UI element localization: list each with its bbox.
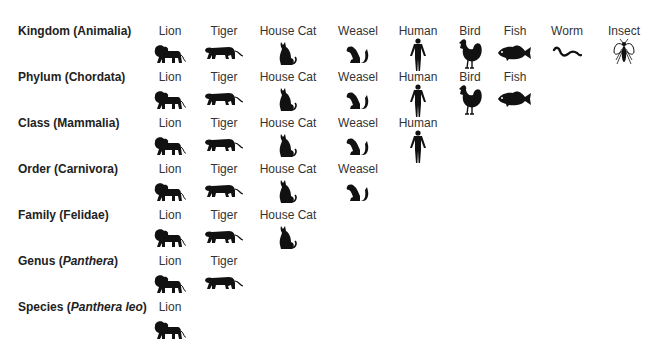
rank-label-class: Class (Mammalia)	[18, 116, 119, 130]
bird-icon	[457, 84, 483, 116]
rank-label-phylum: Phylum (Chordata)	[18, 70, 125, 84]
fish-icon	[497, 44, 533, 62]
human-icon	[409, 130, 427, 164]
worm-icon	[552, 44, 582, 60]
lion-icon	[153, 274, 187, 296]
fish-icon	[497, 90, 533, 108]
tiger-icon	[204, 136, 244, 154]
organism-label-tiger: Tiger	[211, 162, 238, 176]
house-cat-icon	[277, 132, 299, 158]
tiger-icon	[204, 274, 244, 292]
organism-label-tiger: Tiger	[211, 24, 238, 38]
organism-label-human: Human	[399, 70, 438, 84]
tiger-icon	[204, 228, 244, 246]
organism-label-weasel: Weasel	[338, 116, 378, 130]
organism-label-cat: House Cat	[260, 162, 317, 176]
lion-icon	[153, 182, 187, 204]
human-icon	[409, 84, 427, 118]
organism-label-lion: Lion	[159, 254, 182, 268]
organism-label-weasel: Weasel	[338, 24, 378, 38]
human-icon	[409, 38, 427, 72]
insect-icon	[611, 38, 637, 66]
organism-label-worm: Worm	[551, 24, 583, 38]
organism-label-tiger: Tiger	[211, 254, 238, 268]
house-cat-icon	[277, 178, 299, 204]
rank-label-species: Species (Panthera leo)	[18, 300, 147, 314]
weasel-icon	[346, 182, 370, 202]
organism-label-lion: Lion	[159, 162, 182, 176]
house-cat-icon	[277, 224, 299, 250]
organism-label-fish: Fish	[504, 70, 527, 84]
rank-label-order: Order (Carnivora)	[18, 162, 118, 176]
rank-label-family: Family (Felidae)	[18, 208, 109, 222]
weasel-icon	[346, 90, 370, 110]
rank-label-kingdom: Kingdom (Animalia)	[18, 24, 131, 38]
lion-icon	[153, 320, 187, 342]
organism-label-bird: Bird	[459, 70, 480, 84]
tiger-icon	[204, 182, 244, 200]
lion-icon	[153, 228, 187, 250]
organism-label-weasel: Weasel	[338, 70, 378, 84]
organism-label-lion: Lion	[159, 300, 182, 314]
organism-label-cat: House Cat	[260, 24, 317, 38]
organism-label-lion: Lion	[159, 24, 182, 38]
rank-label-genus: Genus (Panthera)	[18, 254, 118, 268]
house-cat-icon	[277, 86, 299, 112]
house-cat-icon	[277, 40, 299, 66]
organism-label-weasel: Weasel	[338, 162, 378, 176]
organism-label-human: Human	[399, 24, 438, 38]
organism-label-fish: Fish	[504, 24, 527, 38]
organism-label-lion: Lion	[159, 70, 182, 84]
organism-label-insect: Insect	[608, 24, 640, 38]
tiger-icon	[204, 90, 244, 108]
organism-label-lion: Lion	[159, 208, 182, 222]
organism-label-cat: House Cat	[260, 208, 317, 222]
organism-label-tiger: Tiger	[211, 70, 238, 84]
lion-icon	[153, 90, 187, 112]
organism-label-tiger: Tiger	[211, 208, 238, 222]
weasel-icon	[346, 136, 370, 156]
organism-label-bird: Bird	[459, 24, 480, 38]
bird-icon	[457, 38, 483, 70]
organism-label-cat: House Cat	[260, 70, 317, 84]
tiger-icon	[204, 44, 244, 62]
lion-icon	[153, 44, 187, 66]
organism-label-cat: House Cat	[260, 116, 317, 130]
organism-label-lion: Lion	[159, 116, 182, 130]
lion-icon	[153, 136, 187, 158]
organism-label-human: Human	[399, 116, 438, 130]
weasel-icon	[346, 44, 370, 64]
organism-label-tiger: Tiger	[211, 116, 238, 130]
